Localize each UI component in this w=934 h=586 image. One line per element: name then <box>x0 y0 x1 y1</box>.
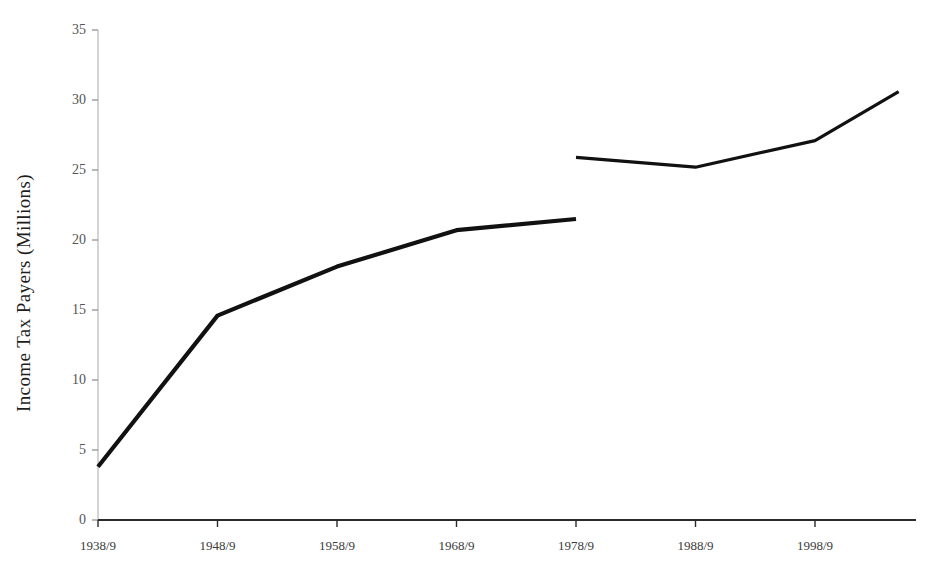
plot-area <box>0 0 934 586</box>
income-tax-payers-chart: Income Tax Payers (Millions) 05101520253… <box>0 0 934 586</box>
data-line-series-1 <box>576 92 899 168</box>
data-series-group <box>98 92 899 467</box>
data-line-series-0 <box>98 219 576 467</box>
y-axis <box>92 30 98 520</box>
x-axis <box>98 520 916 527</box>
